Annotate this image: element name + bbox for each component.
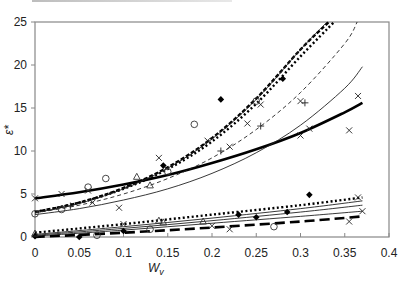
data-point-x	[355, 93, 361, 99]
chart: 00.050.10.150.20.250.30.350.4 0510152025…	[0, 0, 407, 291]
data-point-circle	[147, 226, 154, 233]
y-tick-label: 5	[20, 187, 27, 201]
data-point-circle	[191, 121, 198, 128]
y-tick-label: 0	[20, 230, 27, 244]
x-tick-labels: 00.050.10.150.20.250.30.350.4	[32, 246, 398, 260]
data-point-diamond	[306, 192, 313, 199]
x-tick-label: 0.25	[245, 246, 269, 260]
fit-curve-upper-dashed-heavy	[35, 22, 329, 212]
x-tick-label: 0.35	[333, 246, 357, 260]
x-tick-label: 0.4	[381, 246, 398, 260]
y-tick-label: 15	[14, 101, 28, 115]
data-point-diamond	[280, 75, 287, 82]
data-point-x	[227, 144, 233, 150]
data-point-plus	[217, 148, 224, 155]
data-point-x	[156, 155, 162, 161]
data-point-x	[209, 223, 215, 229]
x-tick-label: 0.1	[115, 246, 132, 260]
data-point-diamond	[235, 211, 242, 218]
data-point-circle	[103, 175, 110, 182]
x-axis-label-sub: v	[159, 267, 164, 277]
x-axis-label: Wv	[148, 261, 164, 277]
data-point-x	[355, 194, 361, 200]
data-point-circle	[271, 223, 278, 230]
y-tick-label: 20	[14, 58, 28, 72]
data-point-x	[346, 127, 352, 133]
x-tick-label: 0.3	[292, 246, 309, 260]
data-point-x	[116, 205, 122, 211]
y-tick-label: 25	[14, 15, 28, 29]
y-axis-label: ε*	[2, 125, 16, 135]
x-tick-label: 0.2	[204, 246, 221, 260]
fit-curves	[35, 22, 362, 237]
data-point-diamond	[218, 96, 225, 103]
fit-curve-upper-thin-dashed	[35, 22, 357, 213]
fit-curve-lower-thin-solid-1	[35, 201, 362, 235]
x-tick-label: 0	[32, 246, 39, 260]
fit-curve-lower-thin-solid-3	[35, 211, 362, 236]
data-point-triangle	[133, 173, 140, 179]
data-point-circle	[85, 184, 92, 191]
data-point-x	[346, 219, 352, 225]
plot-frame	[35, 22, 389, 237]
x-tick-label: 0.15	[156, 246, 180, 260]
data-point-plus	[301, 99, 308, 106]
data-point-x	[258, 102, 264, 108]
y-tick-label: 10	[14, 144, 28, 158]
data-point-x	[244, 120, 250, 126]
x-tick-label: 0.05	[68, 246, 92, 260]
